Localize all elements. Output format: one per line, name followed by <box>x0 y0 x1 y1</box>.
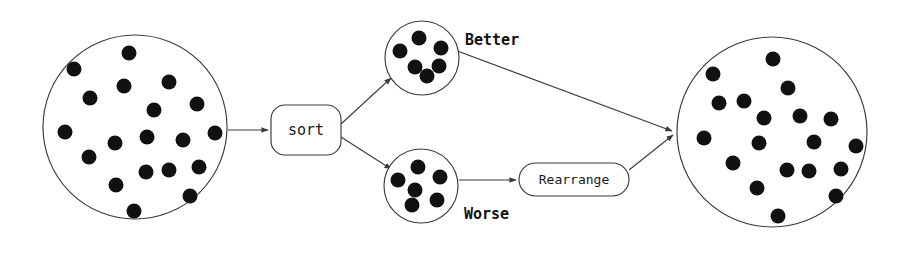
item-dot <box>67 62 82 77</box>
item-dot <box>391 173 406 188</box>
edge-rearrange-to-output-line <box>629 135 673 170</box>
item-dot <box>393 44 408 59</box>
item-dot <box>829 189 844 204</box>
item-dot <box>109 178 124 193</box>
item-dot <box>190 97 205 112</box>
item-dot <box>780 163 795 178</box>
output-pool[interactable] <box>677 37 867 227</box>
worse-pool[interactable] <box>384 149 458 223</box>
item-dot <box>706 67 721 82</box>
edge-label-worse: Worse <box>464 205 509 223</box>
item-dot <box>408 60 423 75</box>
edge-better-to-output <box>452 49 672 131</box>
edge-sort-to-worse <box>341 137 391 169</box>
item-dot <box>411 160 426 175</box>
item-dot <box>162 75 177 90</box>
item-dot <box>147 103 162 118</box>
item-dot <box>766 52 781 67</box>
item-dot <box>834 162 849 177</box>
item-dot <box>697 131 712 146</box>
diagram-svg: sortRearrange BetterWorse <box>0 0 904 254</box>
item-dot <box>82 150 97 165</box>
item-dot <box>408 183 423 198</box>
rearrange-node[interactable]: Rearrange <box>519 163 629 196</box>
item-dot <box>807 135 822 150</box>
edge-better-to-output-line <box>452 49 672 131</box>
item-dot <box>140 130 155 145</box>
item-dot <box>420 69 435 84</box>
item-dot <box>139 165 154 180</box>
item-dot <box>793 109 808 124</box>
item-dot <box>405 198 420 213</box>
item-dot <box>208 126 223 141</box>
item-dot <box>781 81 796 96</box>
item-dot <box>726 156 741 171</box>
item-dot <box>752 136 767 151</box>
item-dot <box>712 96 727 111</box>
item-dot <box>433 170 448 185</box>
item-dot <box>757 111 772 126</box>
nodes-layer: sortRearrange <box>43 21 867 227</box>
edge-sort-to-worse-line <box>341 137 391 169</box>
input-pool[interactable] <box>43 35 227 219</box>
item-dot <box>771 209 786 224</box>
item-dot <box>122 46 137 61</box>
item-dot <box>162 163 177 178</box>
item-dot <box>737 94 752 109</box>
item-dot <box>117 79 132 94</box>
better-pool[interactable] <box>385 21 459 95</box>
item-dot <box>750 181 765 196</box>
item-dot <box>58 125 73 140</box>
item-dot <box>192 160 207 175</box>
item-dot <box>176 133 191 148</box>
rearrange-node-label: Rearrange <box>539 172 610 187</box>
item-dot <box>127 204 142 219</box>
edge-sort-to-better-line <box>341 78 391 124</box>
item-dot <box>430 193 445 208</box>
item-dot <box>434 41 449 56</box>
diagram-canvas: sortRearrange BetterWorse <box>0 0 904 254</box>
item-dot <box>432 59 447 74</box>
item-dot <box>183 189 198 204</box>
item-dot <box>824 112 839 127</box>
sort-node[interactable]: sort <box>271 105 341 155</box>
sort-node-label: sort <box>288 121 324 139</box>
item-dot <box>83 91 98 106</box>
edge-rearrange-to-output <box>629 135 673 170</box>
edge-label-better: Better <box>465 31 519 49</box>
item-dot <box>108 136 123 151</box>
edge-sort-to-better <box>341 78 391 124</box>
item-dot <box>412 31 427 46</box>
labels-layer: BetterWorse <box>464 31 519 223</box>
item-dot <box>802 164 817 179</box>
item-dot <box>849 139 864 154</box>
